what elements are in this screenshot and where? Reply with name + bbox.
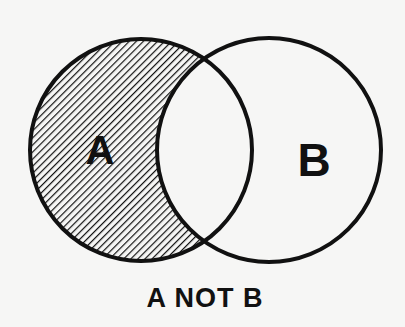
diagram-caption: A NOT B xyxy=(147,283,264,313)
set-label-a: A xyxy=(86,128,115,172)
venn-diagram: A B A NOT B xyxy=(0,0,405,327)
set-label-b: B xyxy=(297,134,330,186)
